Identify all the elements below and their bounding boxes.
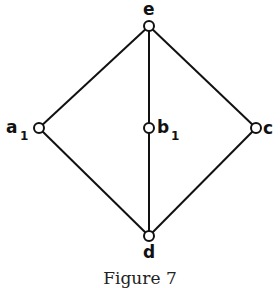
label-a-subscript: 1 [20,129,28,143]
edge-a1-d [39,128,149,236]
label-b-subscript: 1 [171,129,179,143]
node-c [251,123,261,133]
label-e: e [143,0,155,19]
node-d [144,231,154,241]
node-b1 [144,123,154,133]
edge-e-a1 [39,26,149,128]
label-c: c [263,118,273,138]
edge-c-d [149,128,256,236]
label-d: d [143,242,155,262]
label-a: a [6,117,17,137]
node-a1 [34,123,44,133]
label-b: b [157,117,169,137]
figure-caption: Figure 7 [0,268,280,288]
edge-e-c [149,26,256,128]
node-e [144,21,154,31]
